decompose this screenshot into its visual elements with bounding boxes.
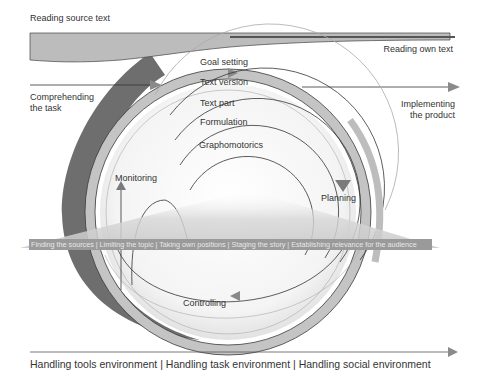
level-text-version: Text version	[200, 77, 248, 88]
level-text-part: Text part	[200, 98, 235, 109]
level-goal-setting: Goal setting	[200, 57, 248, 68]
planning-label: Planning	[321, 193, 356, 204]
reading-source-text-label: Reading source text	[30, 13, 110, 24]
monitoring-label: Monitoring	[115, 173, 157, 184]
implementing-label: Implementing the product	[401, 99, 455, 121]
comprehending-label: Comprehending the task	[30, 92, 94, 114]
level-graphomotorics: Graphomotorics	[199, 140, 263, 151]
controlling-label: Controlling	[183, 298, 226, 309]
level-formulation: Formulation	[200, 117, 248, 128]
reading-own-text-label: Reading own text	[383, 44, 453, 55]
environment-axis-label: Handling tools environment | Handling ta…	[30, 358, 431, 370]
subprocess-banner: Finding the sources | Limiting the topic…	[29, 239, 432, 250]
